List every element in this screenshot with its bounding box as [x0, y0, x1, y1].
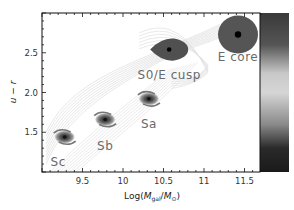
contour-line — [46, 29, 220, 144]
contour-line — [46, 30, 220, 148]
galaxy-label: Sb — [97, 139, 113, 153]
y-tick-label: 2.0 — [24, 88, 38, 98]
galaxy-e-core — [218, 15, 258, 53]
galaxy-label: E core — [218, 50, 258, 64]
x-tick-label: 10.5 — [154, 176, 173, 186]
galaxy-nucleus — [167, 47, 172, 52]
contour-line — [60, 66, 182, 172]
colorbar — [260, 13, 289, 172]
y-axis: 1.52.02.5 — [24, 13, 46, 172]
y-tick-label: 2.5 — [24, 48, 38, 58]
contour-line — [46, 37, 220, 164]
galaxy-label: Sc — [51, 155, 66, 169]
galaxy-sb — [94, 112, 116, 127]
galaxy-s0-e-cusp — [150, 38, 188, 60]
x-axis-label: Log(Mgal/M⊙) — [124, 191, 180, 203]
chart: ScSbSaS0/E cuspE core 9.51010.51111.5 1.… — [0, 0, 294, 210]
galaxy-label: Sa — [141, 117, 157, 131]
galaxy-nucleus — [63, 135, 67, 139]
x-tick-label: 11 — [199, 176, 210, 186]
galaxy-nucleus — [103, 118, 107, 122]
colorbar-gradient — [260, 13, 289, 172]
x-tick-label: 11.5 — [235, 176, 254, 186]
y-axis-label: u − r — [8, 79, 18, 103]
contour-line — [46, 35, 220, 160]
density-contours — [46, 24, 220, 172]
galaxy-nucleus — [235, 31, 241, 37]
y-tick-label: 1.5 — [24, 127, 38, 137]
galaxy-nucleus — [147, 97, 151, 101]
x-tick-label: 10 — [118, 176, 129, 186]
galaxy-label: S0/E cusp — [138, 68, 201, 82]
x-tick-label: 9.5 — [76, 176, 90, 186]
galaxy-sc — [54, 130, 76, 145]
